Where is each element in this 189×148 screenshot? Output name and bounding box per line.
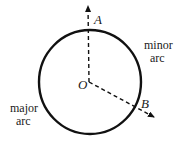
label-b: B	[141, 96, 149, 111]
major-arc-label-2: arc	[16, 114, 31, 128]
circle-diagram: A B O minor arc major arc	[0, 0, 189, 148]
label-o: O	[78, 77, 88, 92]
label-a: A	[93, 12, 102, 27]
minor-arc-label-2: arc	[150, 51, 165, 65]
major-arc-label-1: major	[10, 101, 38, 115]
minor-arc-label-1: minor	[144, 38, 173, 52]
radius-oa	[88, 6, 89, 82]
